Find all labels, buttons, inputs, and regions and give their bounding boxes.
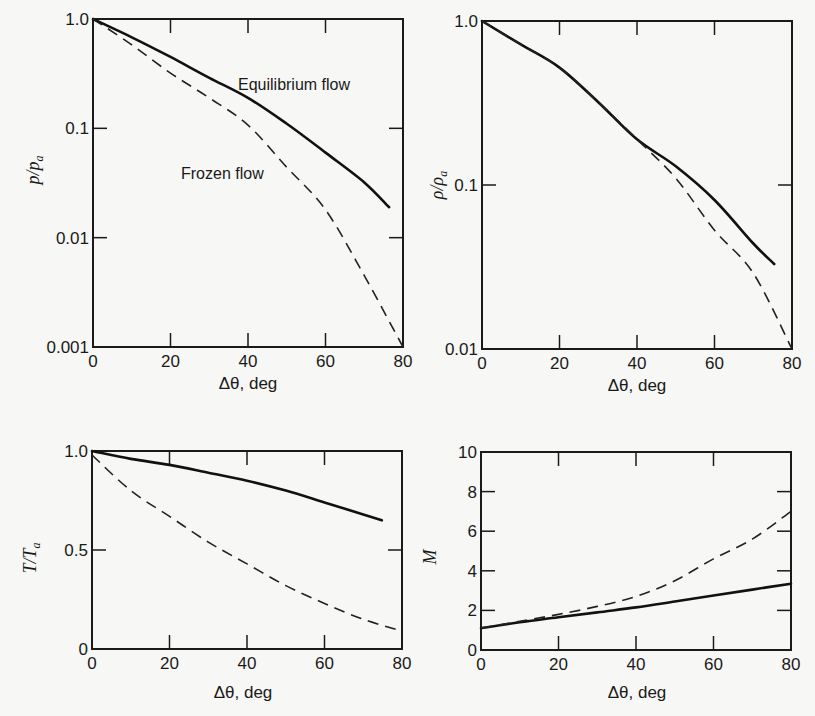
y-tick-label: 10 <box>458 443 477 462</box>
equilibrium-flow-line <box>482 21 774 264</box>
y-tick-label: 4 <box>468 562 477 581</box>
panel-pressure: 0204060801.00.10.010.001 Equilibrium flo… <box>23 10 412 393</box>
y-tick-label: 2 <box>468 601 477 620</box>
x-tick-label: 20 <box>550 354 569 373</box>
y-tick-label: 6 <box>468 522 477 541</box>
y-tick-label: 0 <box>79 640 88 659</box>
y-tick-label: 8 <box>468 483 477 502</box>
plot-frame <box>93 19 403 347</box>
panel-temperature: 02040608000.51.0 Δθ, deg T/Ta <box>20 442 411 702</box>
x-tick-label: 0 <box>477 354 486 373</box>
y-axis-label: p/pa <box>23 155 46 186</box>
x-tick-label: 80 <box>782 655 801 674</box>
y-tick-label: 1.0 <box>65 10 89 29</box>
frozen-flow-line <box>482 21 792 349</box>
x-tick-label: 80 <box>783 354 802 373</box>
y-axis-label: ρ/ρa <box>427 171 450 200</box>
y-tick-label: 0.001 <box>46 338 89 357</box>
x-axis-label: Δθ, deg <box>608 683 667 702</box>
x-axis-label: Δθ, deg <box>608 376 667 395</box>
tick-labels: 0204060801.00.10.01 <box>445 12 802 373</box>
annotation-equilibrium-flow: Equilibrium flow <box>238 76 350 93</box>
panel-density: 0204060801.00.10.01 Δθ, deg ρ/ρa <box>427 12 801 395</box>
x-tick-label: 20 <box>160 654 179 673</box>
x-tick-label: 0 <box>88 352 97 371</box>
x-axis-label: Δθ, deg <box>214 683 273 702</box>
figure: 0204060801.00.10.010.001 Equilibrium flo… <box>0 0 815 716</box>
x-tick-label: 0 <box>87 654 96 673</box>
y-axis-label: M <box>420 549 440 566</box>
x-tick-label: 80 <box>394 352 413 371</box>
x-tick-label: 60 <box>705 354 724 373</box>
x-tick-label: 40 <box>239 352 258 371</box>
x-axis-label: Δθ, deg <box>219 374 278 393</box>
y-tick-label: 1.0 <box>64 442 88 461</box>
y-tick-label: 0.5 <box>64 541 88 560</box>
panel-mach: 0204060800246810 Δθ, deg M <box>420 443 800 702</box>
annotation-frozen-flow: Frozen flow <box>181 165 264 182</box>
tick-labels: 0204060801.00.10.010.001 <box>46 10 412 371</box>
x-tick-label: 40 <box>628 354 647 373</box>
equilibrium-flow-line <box>92 451 382 520</box>
plot-frame <box>482 21 792 349</box>
x-tick-label: 20 <box>161 352 180 371</box>
x-tick-label: 60 <box>704 655 723 674</box>
x-tick-label: 0 <box>476 655 485 674</box>
equilibrium-flow-line <box>481 584 791 629</box>
ticks <box>93 19 403 347</box>
tick-labels: 0204060800246810 <box>458 443 800 674</box>
y-tick-label: 1.0 <box>454 12 478 31</box>
y-tick-label: 0.01 <box>56 229 89 248</box>
y-tick-label: 0 <box>468 641 477 660</box>
x-tick-label: 40 <box>627 655 646 674</box>
x-tick-label: 60 <box>316 352 335 371</box>
x-tick-label: 60 <box>315 654 334 673</box>
tick-labels: 02040608000.51.0 <box>64 442 411 673</box>
y-tick-label: 0.1 <box>65 119 89 138</box>
ticks <box>482 21 792 349</box>
frozen-flow-line <box>93 19 403 347</box>
frozen-flow-line <box>481 511 791 628</box>
x-tick-label: 40 <box>238 654 257 673</box>
y-tick-label: 0.01 <box>445 340 478 359</box>
y-axis-label: T/Ta <box>20 542 43 573</box>
x-tick-label: 20 <box>549 655 568 674</box>
y-tick-label: 0.1 <box>454 176 478 195</box>
x-tick-label: 80 <box>393 654 412 673</box>
